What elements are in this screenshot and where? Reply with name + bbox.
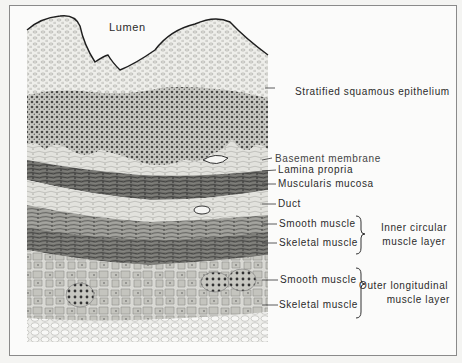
label-basement-membrane: Basement membrane bbox=[275, 153, 381, 164]
label-inner-group-1: Inner circular bbox=[378, 222, 450, 233]
label-outer-group-1: Outer longitudinal bbox=[359, 280, 448, 291]
label-inner-skeletal-muscle: Skeletal muscle bbox=[279, 237, 358, 248]
label-duct: Duct bbox=[278, 198, 301, 209]
esophagus-illustration bbox=[0, 0, 462, 363]
label-outer-group-2: muscle layer bbox=[372, 294, 450, 305]
label-epithelium: Stratified squamous epithelium bbox=[295, 86, 450, 97]
label-outer-smooth-muscle: Smooth muscle bbox=[280, 274, 357, 285]
inner-brace bbox=[356, 216, 365, 254]
label-muscularis-mucosa: Muscularis mucosa bbox=[278, 178, 374, 189]
label-lumen: Lumen bbox=[109, 21, 146, 33]
label-lamina-propria: Lamina propria bbox=[278, 164, 353, 175]
label-inner-group-2: muscle layer bbox=[378, 236, 450, 247]
label-outer-skeletal-muscle: Skeletal muscle bbox=[279, 299, 358, 310]
duct bbox=[194, 206, 210, 214]
label-inner-smooth-muscle: Smooth muscle bbox=[279, 218, 356, 229]
outer-brace bbox=[356, 268, 365, 318]
